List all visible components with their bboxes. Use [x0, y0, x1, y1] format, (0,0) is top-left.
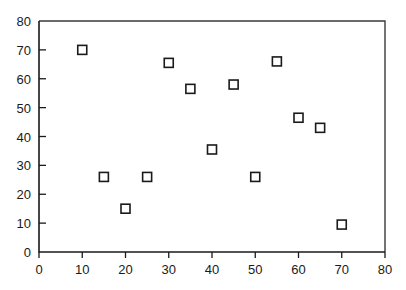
- data-point-marker: [272, 57, 281, 66]
- data-point-marker: [316, 123, 325, 132]
- data-point-marker: [143, 172, 152, 181]
- x-tick-label-60: 60: [291, 262, 305, 277]
- x-axis-tick-labels: 01020304050607080: [35, 262, 392, 277]
- data-points: [78, 45, 347, 229]
- scatter-chart: 01020304050607080 01020304050607080: [0, 0, 406, 290]
- y-tick-label-50: 50: [17, 101, 31, 116]
- data-point-marker: [164, 58, 173, 67]
- data-point-marker: [337, 220, 346, 229]
- y-tick-label-70: 70: [17, 43, 31, 58]
- y-tick-label-40: 40: [17, 130, 31, 145]
- plot-frame: [39, 21, 385, 252]
- data-point-marker: [251, 172, 260, 181]
- y-tick-label-80: 80: [17, 14, 31, 29]
- x-tick-label-70: 70: [335, 262, 349, 277]
- x-tick-label-20: 20: [118, 262, 132, 277]
- x-tick-label-30: 30: [162, 262, 176, 277]
- data-point-marker: [121, 204, 130, 213]
- y-axis-ticks: [39, 50, 46, 223]
- data-point-marker: [294, 113, 303, 122]
- y-tick-label-20: 20: [17, 187, 31, 202]
- y-tick-label-0: 0: [24, 245, 31, 260]
- plot-axes: [39, 21, 385, 252]
- x-tick-label-80: 80: [378, 262, 392, 277]
- y-tick-label-60: 60: [17, 72, 31, 87]
- data-point-marker: [99, 172, 108, 181]
- x-tick-label-0: 0: [35, 262, 42, 277]
- data-point-marker: [229, 80, 238, 89]
- x-tick-label-10: 10: [75, 262, 89, 277]
- data-point-marker: [78, 45, 87, 54]
- plot-canvas: 01020304050607080 01020304050607080: [0, 0, 406, 290]
- x-axis-ticks: [39, 252, 385, 258]
- data-point-marker: [208, 145, 217, 154]
- y-axis-tick-labels: 01020304050607080: [17, 14, 31, 260]
- x-tick-label-40: 40: [205, 262, 219, 277]
- x-tick-label-50: 50: [248, 262, 262, 277]
- plot-frame-top-right: [39, 21, 385, 252]
- y-tick-label-10: 10: [17, 216, 31, 231]
- y-tick-label-30: 30: [17, 158, 31, 173]
- data-point-marker: [186, 84, 195, 93]
